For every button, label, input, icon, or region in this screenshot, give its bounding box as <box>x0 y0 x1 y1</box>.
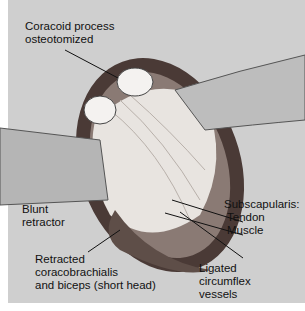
label-coracoid: Coracoid processosteotomized <box>25 20 114 46</box>
label-retracted-muscles: Retractedcoracobrachialisand biceps (sho… <box>35 253 156 292</box>
illustration-frame: Coracoid processosteotomized Bluntretrac… <box>0 0 305 311</box>
label-blunt-retractor: Bluntretractor <box>22 203 65 229</box>
label-ligated-vessels: Ligatedcircumflexvessels <box>199 262 251 301</box>
label-subscapularis: Subscapularis:TendonMuscle <box>224 198 299 237</box>
